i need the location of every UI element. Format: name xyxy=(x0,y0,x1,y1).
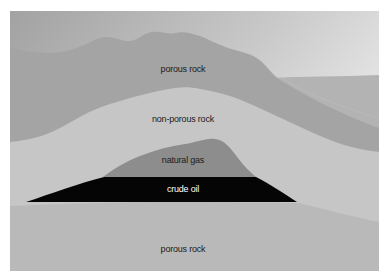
bottom-porous-rock-label: porous rock xyxy=(161,244,206,254)
crude-oil-label: crude oil xyxy=(167,184,199,194)
non-porous-rock-label: non-porous rock xyxy=(152,114,214,124)
natural-gas-label: natural gas xyxy=(162,155,204,165)
bottom-porous-rock-layer xyxy=(10,202,379,271)
top-porous-rock-label: porous rock xyxy=(161,64,206,74)
geology-diagram xyxy=(0,0,388,278)
